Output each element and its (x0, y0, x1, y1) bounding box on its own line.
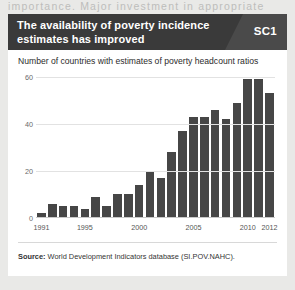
gridline (36, 171, 275, 172)
bar (222, 119, 231, 218)
source-prefix: Source: (18, 252, 46, 261)
x-tick-label: 2005 (186, 223, 202, 232)
page-body-text-fragment: importance. Major investment in appropri… (8, 0, 287, 13)
bar (146, 171, 155, 218)
x-tick-label: 2012 (262, 223, 278, 232)
bar (211, 110, 220, 218)
bar-series (36, 72, 275, 218)
x-tick-label: 2000 (131, 223, 147, 232)
chart-area: 0204060 199119952000200520102012 (18, 70, 277, 232)
bar (265, 93, 274, 218)
figure-badge-label: SC1 (254, 25, 277, 37)
chart-plot (36, 72, 275, 218)
bar (113, 194, 122, 218)
figure-panel: The availability of poverty incidence es… (8, 14, 287, 276)
y-tick-label: 0 (18, 214, 33, 223)
figure-header-band: The availability of poverty incidence es… (8, 14, 287, 50)
bar (124, 194, 133, 218)
gridline (36, 77, 275, 78)
bar (178, 131, 187, 218)
figure-source: Source: World Development Indicators dat… (18, 252, 279, 262)
bar (189, 117, 198, 218)
gridline (36, 124, 275, 125)
y-tick-label: 40 (18, 119, 33, 128)
y-tick-label: 20 (18, 166, 33, 175)
bar (233, 103, 242, 218)
bar (167, 152, 176, 218)
y-tick-label: 60 (18, 72, 33, 81)
bar (91, 197, 100, 218)
figure-title: The availability of poverty incidence es… (17, 18, 227, 46)
source-text: World Development Indicators database (S… (48, 252, 235, 261)
x-axis-line (36, 217, 275, 218)
x-tick-label: 2010 (240, 223, 256, 232)
bar (157, 178, 166, 218)
x-tick-label: 1995 (77, 223, 93, 232)
bar (48, 204, 57, 218)
bar (200, 117, 209, 218)
bar (243, 79, 252, 218)
x-tick-label: 1991 (33, 223, 49, 232)
bar (135, 185, 144, 218)
bar (254, 79, 263, 218)
chart-subtitle: Number of countries with estimates of po… (18, 56, 258, 66)
footer-divider (18, 242, 277, 243)
